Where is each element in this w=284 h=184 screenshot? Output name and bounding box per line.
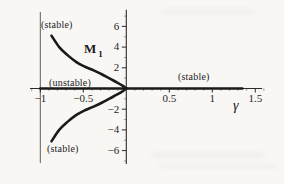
svg-text:2: 2 <box>114 61 120 73</box>
paper-bleed-artifact <box>152 152 264 158</box>
bifurcation-figure: −1−0.50.511.5−6−4−2246 (stable) (unstabl… <box>0 0 284 184</box>
label-stable-upper-branch: (stable) <box>41 19 73 30</box>
y-axis-label-main: M <box>84 41 96 56</box>
svg-text:−2: −2 <box>108 103 120 115</box>
svg-text:1.5: 1.5 <box>248 92 262 104</box>
svg-text:0.5: 0.5 <box>162 92 176 104</box>
label-stable-lower-branch: (stable) <box>47 143 79 154</box>
svg-text:−0.5: −0.5 <box>73 92 93 104</box>
svg-text:4: 4 <box>114 40 120 52</box>
svg-text:−6: −6 <box>108 144 120 156</box>
y-axis-label: M1 <box>84 41 103 59</box>
label-stable-trivial-branch: (stable) <box>178 71 210 82</box>
paper-bleed-artifact <box>158 164 276 169</box>
x-axis-label: γ <box>233 98 239 114</box>
svg-text:6: 6 <box>114 20 120 32</box>
label-unstable-branch: (unstable) <box>49 77 91 88</box>
paper-bleed-artifact <box>162 9 254 14</box>
svg-text:−4: −4 <box>108 123 120 135</box>
svg-text:−1: −1 <box>34 92 46 104</box>
svg-text:1: 1 <box>210 92 216 104</box>
y-axis-label-subscript: 1 <box>98 49 103 59</box>
